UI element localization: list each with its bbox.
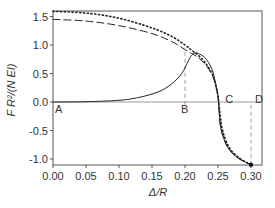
point-label-c: C	[225, 93, 233, 105]
plot-area	[53, 11, 262, 165]
series-dotted	[53, 11, 251, 164]
y-tick-label: -0.5	[29, 125, 48, 137]
y-tick-label: 1.5	[33, 11, 48, 23]
series-dashed	[53, 19, 251, 164]
x-tick-label: 0.30	[240, 170, 261, 182]
y-tick-label: 0.0	[33, 96, 48, 108]
x-tick-label: 0.05	[75, 170, 96, 182]
y-tick-label: -1.0	[29, 153, 48, 165]
x-tick-label: 0.10	[108, 170, 129, 182]
annotations: ABCD	[55, 93, 263, 115]
point-label-a: A	[55, 103, 63, 115]
point-label-d: D	[255, 93, 263, 105]
plot-frame	[53, 11, 262, 165]
end-point-marker	[249, 163, 253, 167]
y-axis-label: F R²/(N EI)	[5, 63, 17, 116]
y-tick-label: 1.0	[33, 39, 48, 51]
x-tick-label: 0.25	[207, 170, 228, 182]
y-tick-label: 0.5	[33, 68, 48, 80]
series-group	[53, 11, 253, 167]
series-solid	[53, 53, 251, 165]
x-tick-label: 0.20	[174, 170, 195, 182]
x-tick-label: 0.00	[42, 170, 63, 182]
chart: 0.000.050.100.150.200.250.30-1.0-0.50.00…	[0, 0, 275, 208]
x-axis-label: Δ/R	[148, 186, 167, 198]
x-tick-label: 0.15	[141, 170, 162, 182]
point-label-b: B	[181, 103, 188, 115]
